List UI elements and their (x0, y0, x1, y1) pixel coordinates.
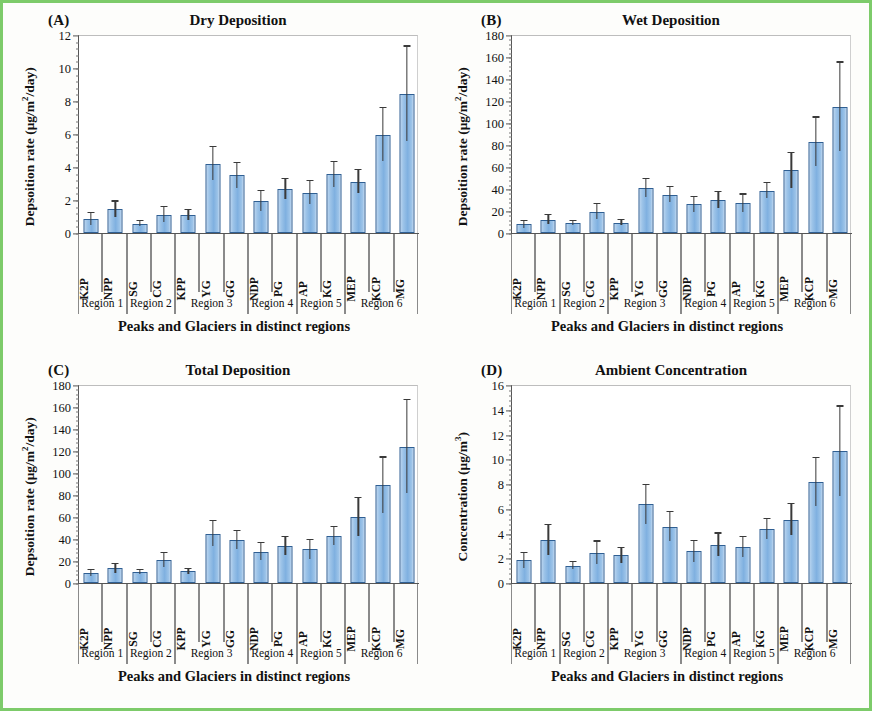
error-bar-a-CG (163, 207, 164, 222)
category-tick-b-PG: PG (705, 234, 729, 292)
error-cap-top (812, 116, 819, 117)
error-bar-c-KCP (382, 458, 383, 513)
region-label-d-region-6: Region 6 (778, 642, 851, 664)
x-axis-title-b: Peaks and Glaciers in distinct regions (469, 318, 865, 335)
region-label-a-region-3: Region 3 (175, 292, 248, 314)
error-bar-c-K2P (90, 570, 91, 577)
region-label-a-region-6: Region 6 (345, 292, 418, 314)
category-tick-c-MEP: MEP (345, 584, 369, 642)
error-cap-top (812, 457, 819, 458)
bar-slot (103, 386, 127, 583)
bar-slot (225, 386, 249, 583)
error-cap-top (209, 520, 216, 521)
error-bar-c-NDP (260, 543, 261, 560)
error-bar-a-MG (406, 47, 407, 141)
bar-slot (103, 36, 127, 233)
error-cap-top (209, 146, 216, 147)
error-cap-top (306, 539, 313, 540)
error-bar-d-YG (645, 485, 646, 523)
region-labels-c: Region 1Region 2Region 3Region 4Region 5… (78, 642, 419, 664)
bar-slot (561, 386, 585, 583)
bar-slot (370, 36, 394, 233)
category-tick-d-SG: SG (560, 584, 584, 642)
error-bar-c-AP (309, 540, 310, 559)
y-axis-title-a: Depsoition rate (μg/m2/day) (20, 32, 38, 262)
bar-slot (346, 386, 370, 583)
category-tick-a-YG: YG (199, 234, 223, 292)
error-bar-d-CG (596, 542, 597, 564)
category-tick-c-NPP: NPP (102, 584, 126, 642)
region-label-c-region-2: Region 2 (127, 642, 176, 664)
error-bar-b-K2P (523, 221, 524, 228)
plot-area-a: 024681012 (78, 35, 418, 233)
bar-slot (803, 36, 827, 233)
error-bar-a-AP (309, 181, 310, 204)
category-tick-d-AP: AP (730, 584, 754, 642)
error-bar-d-MEP (791, 504, 792, 535)
error-bar-c-MG (406, 400, 407, 492)
category-tick-d-KG: KG (754, 584, 778, 642)
bar-slot (585, 36, 609, 233)
error-cap-top (403, 45, 410, 46)
error-bar-d-KCP (815, 458, 816, 506)
region-label-b-region-4: Region 4 (681, 292, 730, 314)
region-labels-d: Region 1Region 2Region 3Region 4Region 5… (511, 642, 852, 664)
chart-panel-c: (C) Total Deposition Depsoition rate (μg… (6, 356, 436, 706)
bar-slot (755, 36, 779, 233)
bar-slot (176, 36, 200, 233)
error-cap-top (618, 547, 625, 548)
error-cap-top (306, 180, 313, 181)
error-bar-a-MEP (358, 170, 359, 193)
error-cap-top (330, 526, 337, 527)
category-tick-c-GG: GG (224, 584, 248, 642)
error-bar-c-CG (163, 553, 164, 566)
category-tick-d-K2P: K2P (511, 584, 535, 642)
error-bar-d-NPP (548, 525, 549, 555)
error-bar-b-PG (718, 192, 719, 209)
error-cap-top (569, 561, 576, 562)
error-bar-b-SG (572, 221, 573, 225)
error-cap-top (88, 212, 95, 213)
category-tick-a-AP: AP (297, 234, 321, 292)
bars-group-a (79, 36, 417, 233)
error-cap-top (715, 191, 722, 192)
error-cap-top (545, 524, 552, 525)
chart-panel-d: (D) Ambient Concentration Concentration … (439, 356, 869, 706)
error-bar-a-NDP (260, 191, 261, 211)
category-tick-d-PG: PG (705, 584, 729, 642)
bar-slot (803, 386, 827, 583)
region-label-a-region-5: Region 5 (297, 292, 346, 314)
bar-slot (755, 386, 779, 583)
bar-slot (609, 36, 633, 233)
figure-container: (A) Dry Deposition Depsoition rate (μg/m… (0, 0, 872, 711)
error-bar-a-GG (236, 163, 237, 188)
region-label-b-region-1: Region 1 (511, 292, 560, 314)
category-tick-c-NDP: NDP (248, 584, 272, 642)
category-tick-c-KG: KG (321, 584, 345, 642)
error-cap-top (160, 552, 167, 553)
category-tick-b-MG: MG (827, 234, 851, 292)
error-cap-top (593, 540, 600, 541)
bar-slot (298, 36, 322, 233)
category-labels-a: K2PNPPSGCGKPPYGGGNDPPGAPKGMEPKCPMG (78, 234, 419, 292)
error-bar-a-YG (212, 147, 213, 180)
bar-slot (395, 386, 419, 583)
chart-panel-a: (A) Dry Deposition Depsoition rate (μg/m… (6, 6, 436, 356)
category-tick-b-MEP: MEP (778, 234, 802, 292)
error-bar-c-MEP (358, 498, 359, 535)
category-tick-a-GG: GG (224, 234, 248, 292)
category-labels-b: K2PNPPSGCGKPPYGGGNDPPGAPKGMEPKCPMG (511, 234, 852, 292)
error-cap-top (788, 503, 795, 504)
error-cap-top (112, 563, 119, 564)
category-tick-d-GG: GG (657, 584, 681, 642)
region-label-c-region-4: Region 4 (248, 642, 297, 664)
region-label-d-region-1: Region 1 (511, 642, 560, 664)
category-tick-b-KCP: KCP (802, 234, 826, 292)
error-bar-a-SG (139, 221, 140, 226)
bar-slot (273, 386, 297, 583)
error-cap-top (258, 190, 265, 191)
bar-slot (779, 36, 803, 233)
error-cap-top (233, 530, 240, 531)
category-tick-d-YG: YG (632, 584, 656, 642)
category-tick-a-SG: SG (127, 234, 151, 292)
